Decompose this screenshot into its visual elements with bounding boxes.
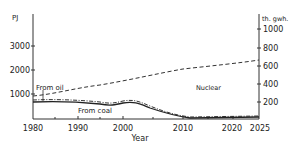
x-tick-label: 2025 xyxy=(250,124,270,133)
right-tick-label: 600 xyxy=(263,62,278,71)
x-tick-label: 2020 xyxy=(222,124,242,133)
right-tick-label: 1000 xyxy=(263,25,283,34)
x-tick-label: 1980 xyxy=(23,124,43,133)
left-axis-unit: PJ xyxy=(12,14,18,22)
energy-chart: PJ th. gwh. 1000 2000 3000 200 400 600 8… xyxy=(0,0,293,147)
label-nuclear: Nuclear xyxy=(196,84,221,92)
label-from-oil: From oil xyxy=(36,84,64,92)
x-tick-label: 2010 xyxy=(173,124,193,133)
left-tick-label: 2000 xyxy=(10,66,30,75)
x-tick-label: 2000 xyxy=(113,124,133,133)
x-tick-label: 1990 xyxy=(68,124,88,133)
right-tick-label: 200 xyxy=(263,98,278,107)
x-axis-title: Year xyxy=(131,134,150,143)
right-tick-label: 400 xyxy=(263,80,278,89)
label-from-coal: From coal xyxy=(78,107,112,115)
right-tick-label: 800 xyxy=(263,44,278,53)
right-axis-unit: th. gwh. xyxy=(262,15,288,23)
left-tick-label: 3000 xyxy=(10,42,30,51)
total-line xyxy=(33,60,259,96)
left-tick-label: 1000 xyxy=(10,90,30,99)
